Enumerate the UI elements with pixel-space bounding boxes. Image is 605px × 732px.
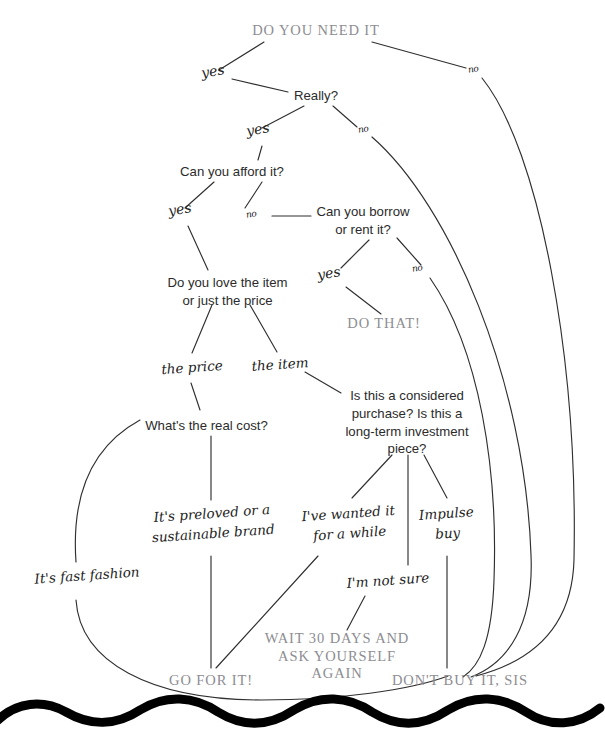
edge-label-no-borrow: no bbox=[411, 262, 423, 274]
edge-root-yes bbox=[219, 42, 264, 70]
node-dont-buy-it-sis: DON'T BUY IT, SIS bbox=[385, 672, 535, 690]
edge-considered-impulse bbox=[424, 455, 447, 498]
edge-no-dontbuy-3 bbox=[430, 278, 495, 677]
edge-label-no-afford: no bbox=[245, 208, 257, 220]
edge-borrow-no bbox=[397, 238, 421, 265]
node-impulse-buy: Impulse buy bbox=[410, 502, 485, 546]
node-wanted-a-while: I've wanted it for a while bbox=[296, 500, 402, 546]
node-go-for-it: GO FOR IT! bbox=[157, 672, 265, 690]
edge-love-theprice bbox=[192, 305, 212, 353]
edge-really-no bbox=[333, 106, 357, 127]
edge-afford-no bbox=[245, 182, 262, 208]
bottom-wave-decoration bbox=[0, 699, 600, 724]
node-really: Really? bbox=[276, 87, 356, 105]
edge-borrow-yes bbox=[341, 240, 369, 268]
node-real-cost: What's the real cost? bbox=[140, 417, 273, 435]
edge-yes-afford bbox=[258, 146, 262, 160]
node-do-that: DO THAT! bbox=[338, 315, 430, 333]
node-love-or-price: Do you love the item or just the price bbox=[161, 274, 294, 310]
edge-label-no-really: no bbox=[357, 123, 369, 135]
node-borrow: Can you borrow or rent it? bbox=[303, 203, 423, 239]
edge-yes-love bbox=[188, 226, 208, 270]
edge-notsure-wait30 bbox=[347, 596, 365, 630]
decision-flowchart: DO YOU NEED IT Really? Can you afford it… bbox=[0, 0, 605, 732]
node-root: DO YOU NEED IT bbox=[236, 22, 396, 40]
node-considered: Is this a considered purchase? Is this a… bbox=[336, 387, 478, 458]
edge-yes-dothat bbox=[346, 287, 381, 314]
edge-theprice-realcost bbox=[191, 383, 200, 410]
node-afford: Can you afford it? bbox=[167, 163, 297, 181]
edge-no-dontbuy-1 bbox=[476, 78, 574, 676]
edge-realcost-fastfashion bbox=[75, 420, 140, 562]
edge-root-no bbox=[372, 42, 466, 68]
edge-considered-wanted bbox=[352, 455, 392, 498]
edge-label-no-root: no bbox=[467, 63, 479, 75]
edge-love-theitem bbox=[250, 305, 277, 352]
